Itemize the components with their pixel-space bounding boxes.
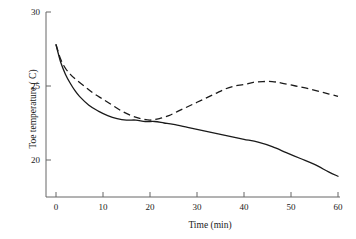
x-axis-title: Time (min) (150, 220, 270, 230)
x-tick-label: 20 (146, 202, 155, 212)
x-tick-label: 50 (287, 202, 296, 212)
y-tick-label: 30 (10, 7, 40, 17)
x-tick-label: 60 (334, 202, 343, 212)
y-axis-ticks (46, 12, 51, 160)
y-axis-title: Toe temperature ( C) (28, 29, 38, 189)
x-tick-label: 40 (240, 202, 249, 212)
x-tick-label: 0 (54, 202, 59, 212)
x-tick-label: 30 (193, 202, 202, 212)
x-tick-label: 10 (99, 202, 108, 212)
chart-container: 202530 0102030405060 Toe temperature ( C… (0, 0, 356, 239)
data-series-dashed (56, 45, 338, 120)
data-series-solid (56, 45, 338, 177)
x-axis-ticks (56, 192, 338, 197)
